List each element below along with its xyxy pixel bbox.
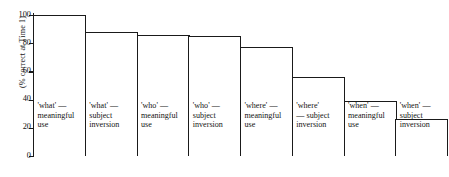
- bar-label-line: inversion: [89, 120, 135, 130]
- bar-label-line: inversion: [400, 120, 446, 130]
- bar-label-line: use: [38, 120, 84, 130]
- y-tick-label: 60: [23, 66, 31, 76]
- bar-label: 'who' —subjectinversion: [193, 101, 239, 130]
- bar: 'what' —subjectinversion: [85, 32, 138, 156]
- bar-label: 'when' —subjectinversion: [400, 101, 446, 130]
- bar-label: 'what' —meaningfuluse: [38, 101, 84, 130]
- bar-label-line: 'when' —: [400, 101, 446, 111]
- y-tick-label: 100: [18, 10, 31, 20]
- bar-label-line: meaningful: [245, 111, 291, 121]
- bar-label-line: meaningful: [348, 111, 394, 121]
- bar-label-line: 'what' —: [38, 101, 84, 111]
- bar: 'where' —meaningfuluse: [240, 47, 293, 156]
- bar-label-line: 'who' —: [193, 101, 239, 111]
- bar-label-line: use: [141, 120, 187, 130]
- bar-label: 'what' —subjectinversion: [89, 101, 135, 130]
- bar-label: 'where' —meaningfuluse: [245, 101, 291, 130]
- bar-label-line: use: [348, 120, 394, 130]
- bar: 'who' —subjectinversion: [188, 36, 241, 156]
- bar-label-line: 'who' —: [141, 101, 187, 111]
- bar-label-line: — subject: [296, 111, 342, 121]
- bar-label-line: meaningful: [141, 111, 187, 121]
- bar-label-line: 'where': [296, 101, 342, 111]
- bar: 'what' —meaningfuluse: [33, 15, 86, 156]
- bar: 'when' —subjectinversion: [395, 119, 448, 156]
- bar-chart: (% correct at Time 1) 020406080100 'what…: [0, 0, 449, 177]
- y-tick-label: 40: [23, 94, 31, 104]
- bar: 'when' —meaningfuluse: [344, 101, 397, 156]
- y-tick-label: 20: [23, 122, 31, 132]
- plot-area: 020406080100 'what' —meaningfuluse'what'…: [33, 15, 447, 156]
- bar-label: 'who' —meaningfuluse: [141, 101, 187, 130]
- bar-label-line: 'where' —: [245, 101, 291, 111]
- bar-label-line: subject: [400, 111, 446, 121]
- bar-label-line: inversion: [193, 120, 239, 130]
- bar-label-line: meaningful: [38, 111, 84, 121]
- bar: 'where'— subjectinversion: [292, 77, 345, 156]
- y-tick-label: 80: [23, 38, 31, 48]
- bar-label-line: 'what' —: [89, 101, 135, 111]
- bar-label: 'when' —meaningfuluse: [348, 101, 394, 130]
- bar-label: 'where'— subjectinversion: [296, 101, 342, 130]
- bar-label-line: inversion: [296, 120, 342, 130]
- bar-label-line: subject: [89, 111, 135, 121]
- bar-label-line: 'when' —: [348, 101, 394, 111]
- bar-label-line: use: [245, 120, 291, 130]
- bar: 'who' —meaningfuluse: [137, 35, 190, 156]
- bar-label-line: subject: [193, 111, 239, 121]
- y-tick-label: 0: [27, 151, 31, 161]
